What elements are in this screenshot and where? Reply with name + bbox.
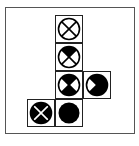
tile	[83, 71, 111, 99]
tile	[55, 15, 83, 43]
tile	[27, 99, 55, 127]
circle-tile-icon	[29, 101, 53, 125]
circle-tile-icon	[85, 73, 109, 97]
circle-tile-icon	[57, 17, 81, 41]
circle-tile-icon	[57, 101, 81, 125]
tile	[55, 99, 83, 127]
circle-tile-icon	[57, 73, 81, 97]
tile	[55, 43, 83, 71]
circle-tile-icon	[57, 45, 81, 69]
tile	[55, 71, 83, 99]
